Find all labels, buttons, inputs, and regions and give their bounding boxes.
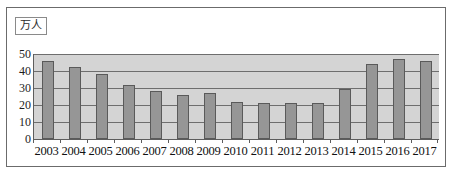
bar-chart-figure: 万人 50 40 30 20 10 0 20032004200520062007… xyxy=(0,0,458,176)
y-axis-tick-labels: 50 40 30 20 10 0 xyxy=(0,0,31,176)
bar-slot xyxy=(358,54,385,139)
y-tick-label: 20 xyxy=(0,99,31,111)
x-tick-label: 2010 xyxy=(222,144,249,160)
bar xyxy=(150,91,162,139)
bar xyxy=(177,95,189,139)
x-tick-label: 2011 xyxy=(249,144,276,160)
bar-slot xyxy=(34,54,61,139)
bar-slot xyxy=(304,54,331,139)
y-tick-label: 50 xyxy=(0,48,31,60)
x-tick-label: 2017 xyxy=(411,144,438,160)
bar xyxy=(123,85,135,139)
bar-slot xyxy=(88,54,115,139)
x-tick-label: 2014 xyxy=(330,144,357,160)
bar xyxy=(258,103,270,139)
x-tick-label: 2016 xyxy=(384,144,411,160)
bar-slot xyxy=(412,54,439,139)
bar xyxy=(204,93,216,139)
bar-slot xyxy=(142,54,169,139)
x-tick-label: 2005 xyxy=(87,144,114,160)
x-axis-tick-labels: 2003200420052006200720082009201020112012… xyxy=(33,144,438,160)
bar xyxy=(312,103,324,139)
bar-slot xyxy=(331,54,358,139)
bar xyxy=(420,61,432,139)
x-tick-label: 2008 xyxy=(168,144,195,160)
bar xyxy=(69,67,81,139)
y-tick-label: 0 xyxy=(0,133,31,145)
y-tick-label: 40 xyxy=(0,65,31,77)
bar xyxy=(42,61,54,139)
y-tick-label: 30 xyxy=(0,82,31,94)
bar-slot xyxy=(250,54,277,139)
y-tick-label: 10 xyxy=(0,116,31,128)
bar xyxy=(285,103,297,139)
bar xyxy=(339,89,351,139)
x-tick-label: 2013 xyxy=(303,144,330,160)
x-tick-label: 2009 xyxy=(195,144,222,160)
x-tick-label: 2003 xyxy=(33,144,60,160)
bar xyxy=(96,74,108,139)
x-tick-label: 2015 xyxy=(357,144,384,160)
x-tick-label: 2007 xyxy=(141,144,168,160)
bar xyxy=(393,59,405,139)
plot-area xyxy=(33,54,439,140)
bar-slot xyxy=(223,54,250,139)
x-tick-label: 2004 xyxy=(60,144,87,160)
bar-slot xyxy=(277,54,304,139)
x-tick-label: 2006 xyxy=(114,144,141,160)
bar-slot xyxy=(169,54,196,139)
bar-slot xyxy=(115,54,142,139)
bar xyxy=(366,64,378,139)
bar-slot xyxy=(61,54,88,139)
bar-slot xyxy=(196,54,223,139)
bar-slot xyxy=(385,54,412,139)
bar xyxy=(231,102,243,139)
bars-layer xyxy=(34,54,439,139)
x-tick-label: 2012 xyxy=(276,144,303,160)
